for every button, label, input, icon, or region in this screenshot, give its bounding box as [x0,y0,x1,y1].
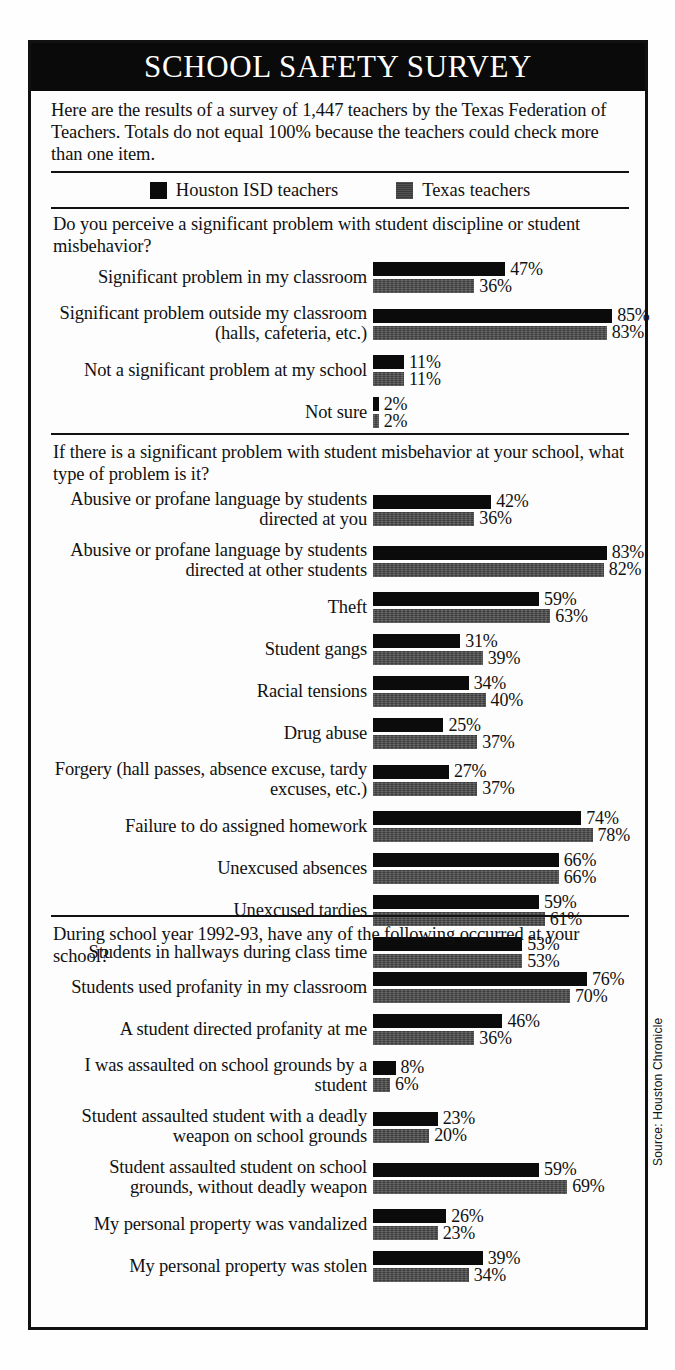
legend-label-houston: Houston ISD teachers [176,180,338,201]
bar-group-label: My personal property was stolen [51,1257,373,1277]
bar-texas [373,1078,390,1092]
bar-row-houston: 8% [373,1061,629,1075]
intro-text: Here are the results of a survey of 1,44… [51,99,627,166]
bar-group-label: Drug abuse [51,724,373,744]
bar-pair: 59%69% [373,1163,629,1194]
bar-value-texas: 37% [482,732,514,753]
bar-value-texas: 82% [609,559,641,580]
legend-swatch-houston-icon [150,182,167,199]
bar-value-texas: 34% [474,1265,506,1286]
bar-pair: 39%34% [373,1251,629,1282]
bar-texas [373,693,486,707]
bar-pair: 46%36% [373,1014,629,1045]
bar-texas [373,326,607,340]
bar-texas [373,1180,567,1194]
bar-value-texas: 39% [488,648,520,669]
bar-texas [373,279,474,293]
bar-houston [373,718,443,732]
bar-texas [373,870,559,884]
bar-value-texas: 40% [491,690,523,711]
bar-group: Significant problem outside my classroom… [51,304,629,344]
bar-texas [373,609,550,623]
bar-group: Unexcused tardies59%61% [51,895,629,926]
survey-section-2: If there is a significant problem with s… [51,441,629,968]
source-credit: Source: Houston Chronicle [651,1148,665,1166]
section-divider-1 [51,433,629,435]
bar-texas [373,735,477,749]
bar-value-texas: 2% [384,411,408,432]
bar-group-label: Students used profanity in my classroom [51,978,373,998]
legend-label-texas: Texas teachers [422,180,530,201]
bar-pair: 23%20% [373,1112,629,1143]
bar-group-label: Theft [51,598,373,618]
section-question: During school year 1992-93, have any of … [53,923,629,967]
bar-houston [373,262,505,276]
bar-houston [373,634,460,648]
page-title: SCHOOL SAFETY SURVEY [144,49,532,85]
bar-row-houston: 26% [373,1209,629,1223]
bar-pair: 31%39% [373,634,629,665]
bar-row-houston: 59% [373,1163,629,1177]
bar-group: Unexcused absences66%66% [51,853,629,884]
bar-value-houston: 25% [448,715,480,736]
bar-pair: 83%82% [373,546,644,577]
bar-texas [373,651,483,665]
bar-group: Theft59%63% [51,592,629,623]
bar-houston [373,397,379,411]
intro-block: Here are the results of a survey of 1,44… [31,91,645,170]
bar-value-texas: 83% [612,322,644,343]
bar-row-houston: 11% [373,355,629,369]
bar-row-houston: 34% [373,676,629,690]
bar-pair: 85%83% [373,309,650,340]
bar-group-label: Abusive or profane language by students … [51,490,373,530]
bar-houston [373,676,469,690]
bar-houston [373,355,404,369]
bar-pair: 27%37% [373,765,629,796]
bar-row-texas: 70% [373,989,629,1003]
bar-group: My personal property was vandalized26%23… [51,1209,629,1240]
bar-group-label: Forgery (hall passes, absence excuse, ta… [51,760,373,800]
bar-row-houston: 59% [373,592,629,606]
bar-texas [373,828,593,842]
bar-row-texas: 66% [373,870,629,884]
bar-pair: 42%36% [373,495,629,526]
bar-texas [373,563,604,577]
bar-row-texas: 69% [373,1180,629,1194]
infographic-page: SCHOOL SAFETY SURVEY Here are the result… [0,0,675,1370]
bar-row-houston: 85% [373,309,650,323]
bar-houston [373,1014,502,1028]
bar-pair: 59%61% [373,895,629,926]
bar-group: My personal property was stolen39%34% [51,1251,629,1282]
bar-texas [373,512,474,526]
bar-row-houston: 2% [373,397,629,411]
bar-row-texas: 37% [373,735,629,749]
survey-section-1: Do you perceive a significant problem wi… [51,213,629,428]
bar-row-houston: 83% [373,546,644,560]
header-bar: SCHOOL SAFETY SURVEY [31,43,645,91]
bar-houston [373,972,587,986]
bar-group: Significant problem in my classroom47%36… [51,262,629,293]
bar-row-texas: 20% [373,1129,629,1143]
bar-row-houston: 59% [373,895,629,909]
bar-group-label: Significant problem outside my classroom… [51,304,373,344]
bar-group-label: Not a significant problem at my school [51,361,373,381]
bar-houston [373,546,607,560]
bar-row-houston: 27% [373,765,629,779]
bar-row-houston: 46% [373,1014,629,1028]
bar-row-texas: 39% [373,651,629,665]
bar-texas [373,372,404,386]
bar-value-texas: 20% [434,1125,466,1146]
survey-section-3: During school year 1992-93, have any of … [51,923,629,1282]
bar-row-texas: 23% [373,1226,629,1240]
bar-pair: 34%40% [373,676,629,707]
bar-houston [373,1251,483,1265]
bar-houston [373,309,612,323]
legend-swatch-texas-icon [396,182,413,199]
bar-group-label: Student gangs [51,640,373,660]
bar-group-label: Unexcused absences [51,859,373,879]
bar-pair: 74%78% [373,811,630,842]
bar-texas [373,1268,469,1282]
section-divider-2 [51,915,629,917]
bar-group: Student assaulted student on school grou… [51,1158,629,1198]
bar-row-texas: 36% [373,512,629,526]
